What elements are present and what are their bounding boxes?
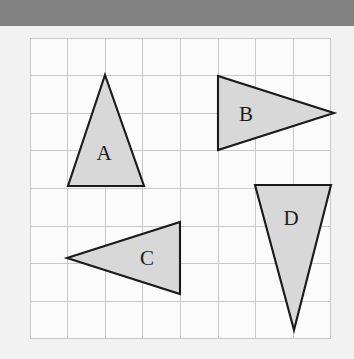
triangle-a-label: A — [96, 141, 112, 165]
triangle-c-label: C — [140, 246, 154, 270]
triangle-d-label: D — [283, 206, 298, 230]
figure-area: ABCD — [0, 26, 354, 359]
triangle-b-label: B — [239, 102, 253, 126]
triangles-figure: ABCD — [0, 26, 354, 359]
top-banner-bar — [0, 0, 354, 26]
figure-page: ABCD — [0, 0, 354, 359]
